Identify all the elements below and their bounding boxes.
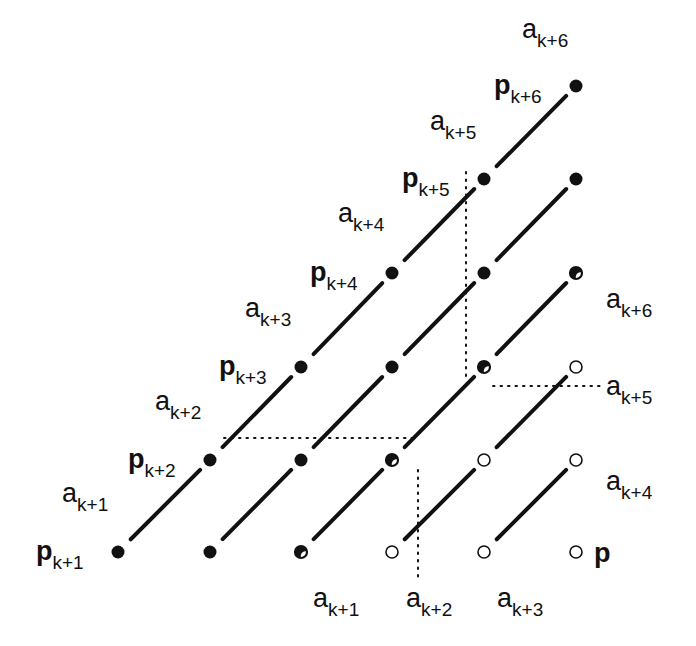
half-filled-point-icon bbox=[386, 454, 398, 466]
label-a-k4-right: ak+4 bbox=[606, 468, 652, 495]
label-a-k2-bottom: ak+2 bbox=[406, 585, 452, 612]
half-filled-point-icon bbox=[295, 546, 307, 558]
filled-point-icon bbox=[386, 361, 399, 374]
label-p-k2: pk+2 bbox=[128, 446, 176, 473]
diagonal-segments bbox=[131, 96, 566, 539]
diagonal-segment bbox=[314, 377, 383, 447]
label-p-corner: p bbox=[594, 540, 611, 567]
label-a-k6-diag: ak+6 bbox=[522, 16, 568, 43]
half-filled-point-icon bbox=[478, 361, 490, 373]
dotted-guide-lines bbox=[224, 172, 600, 580]
label-p-k1: pk+1 bbox=[36, 538, 84, 565]
diagonal-segment bbox=[405, 377, 474, 447]
lattice-diagram: pk+1 pk+2 pk+3 pk+4 pk+5 pk+6 ak+1 ak+2 … bbox=[0, 0, 696, 646]
filled-point-icon bbox=[112, 546, 125, 559]
diagonal-segment bbox=[314, 470, 382, 539]
open-point-icon bbox=[570, 454, 582, 466]
diagonal-segment bbox=[223, 470, 291, 539]
label-a-k1-bottom: ak+1 bbox=[313, 585, 359, 612]
diagonal-segment bbox=[405, 283, 475, 354]
filled-point-icon bbox=[478, 173, 491, 186]
filled-point-icon bbox=[386, 267, 399, 280]
label-a-k3-diag: ak+3 bbox=[245, 295, 291, 322]
filled-point-icon bbox=[204, 454, 217, 467]
label-a-k4-diag: ak+4 bbox=[338, 200, 384, 227]
open-point-icon bbox=[478, 454, 490, 466]
label-p-k4: pk+4 bbox=[310, 259, 358, 286]
label-a-k2-diag: ak+2 bbox=[155, 388, 201, 415]
open-point-icon bbox=[570, 361, 582, 373]
label-p-k5: pk+5 bbox=[402, 165, 450, 192]
half-filled-point-icon bbox=[570, 267, 582, 279]
label-a-k1-diag: ak+1 bbox=[62, 480, 108, 507]
filled-point-icon bbox=[570, 80, 583, 93]
diagonal-segment bbox=[497, 470, 566, 539]
label-p-k3: pk+3 bbox=[219, 353, 267, 380]
filled-point-icon bbox=[570, 173, 583, 186]
open-point-icon bbox=[570, 546, 582, 558]
label-p-k6: pk+6 bbox=[494, 72, 542, 99]
filled-point-icon bbox=[295, 454, 308, 467]
label-a-k6-right: ak+6 bbox=[606, 286, 652, 313]
diagonal-segment bbox=[405, 470, 474, 539]
label-a-k5-right: ak+5 bbox=[606, 373, 652, 400]
diagonal-segment bbox=[497, 189, 567, 260]
filled-point-icon bbox=[478, 267, 491, 280]
lattice-canvas bbox=[0, 0, 696, 646]
label-a-k3-bottom: ak+3 bbox=[497, 585, 543, 612]
diagonal-segment bbox=[497, 377, 566, 447]
open-point-icon bbox=[386, 546, 398, 558]
diagonal-segment bbox=[497, 283, 567, 354]
label-a-k5-diag: ak+5 bbox=[430, 108, 476, 135]
filled-point-icon bbox=[295, 361, 308, 374]
filled-point-icon bbox=[204, 546, 217, 559]
open-point-icon bbox=[478, 546, 490, 558]
